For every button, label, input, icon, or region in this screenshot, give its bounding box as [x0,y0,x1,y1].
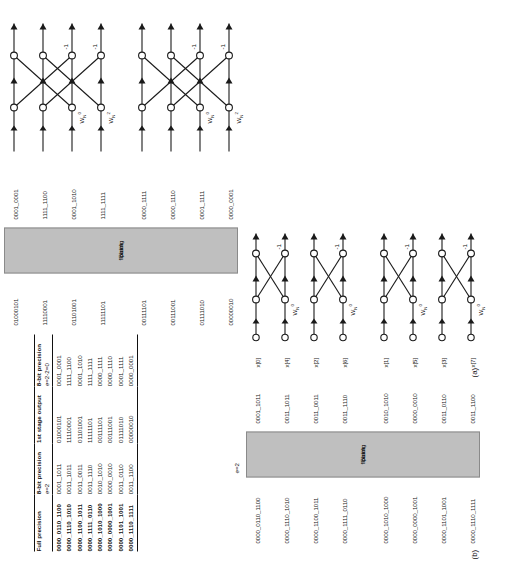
panel-b-full-7: 0000_1110_1111 [469,499,476,543]
panel-b-8bit-5: 0000_0010 [411,393,418,423]
panel-a-twiddle-1: WN2 [106,112,116,123]
panel-a-out-0: 0001_0001 [12,189,19,219]
panel-a-neg1-3: -1 [219,43,226,49]
panel-b-full-4: 0000_1010_1000 [382,496,389,543]
panel-b-neg1-2: -1 [403,243,410,249]
panel-a-in-3: 11111101 [99,301,106,325]
panel-b-block-line3: point [359,447,367,460]
panel-b-twiddle-0: WN0 [290,304,300,315]
panel-a-out-4: 0000_1111 [140,190,147,219]
panel-b-full-6: 0000_1101_1001 [440,497,447,543]
figure-upright: (b) (a) 0000_0110_1100 0000_1110_1010 00… [0,0,508,573]
panel-a-in-7: 00000010 [227,298,234,325]
panel-a-out-2: 0001_1010 [70,189,77,219]
panel-b-full-2: 0000_1100_1011 [312,497,319,543]
panel-a-block-line3: point [117,243,125,256]
panel-a-twiddle-3: WN2 [234,112,244,123]
panel-a-out-5: 0000_1110 [169,190,176,219]
panel-a-twiddle-0: WN0 [77,112,87,123]
panel-b-x-7: x[7] [469,357,476,367]
panel-a-in-5: 00111001 [169,299,176,325]
panel-b-8bit-7: 0011_1100 [469,394,476,423]
panel-b-neg1-1: -1 [333,243,340,249]
panel-b-x-4: x[1] [382,357,389,367]
panel-b-x-2: x[2] [312,357,319,367]
panel-a-datapath: 01000101 11110001 01101001 11111101 0011… [0,0,240,573]
panel-b-x-5: x[5] [411,357,418,367]
panel-b-x-0: x[0] [254,357,261,367]
panel-b-twiddle-2: WN0 [418,304,428,315]
panel-b: 0000_0110_1100 0000_1110_1010 0000_1100_… [242,0,494,573]
panel-a-neg1-2: -1 [190,43,197,49]
panel-b-neg1-3: -1 [461,243,468,249]
panel-b-twiddle-3: WN0 [476,304,486,315]
panel-a-twiddle-2: WN0 [205,112,215,123]
panel-b-x-1: x[4] [283,357,290,367]
panel-a-neg1-0: -1 [62,43,69,49]
panel-a-out-3: 1111_1111 [99,192,106,219]
panel-a-in-6: 01111010 [198,300,205,325]
panel-a-block-floating-point: Block floating point [4,227,238,273]
panel-a-in-2: 01101001 [70,299,77,325]
panel-b-8bit-3: 0011_1110 [341,394,348,423]
panel-a: Full precision 8-bit precision 1st stage… [0,0,240,573]
panel-a-in-4: 00111101 [140,300,147,325]
panel-a-out-7: 0000_0001 [227,189,234,219]
panel-b-twiddle-1: WN0 [348,304,358,315]
panel-b-8bit-6: 0011_0110 [440,394,447,423]
panel-b-full-3: 0000_1111_0110 [341,498,348,543]
figure-canvas: (b) (a) 0000_0110_1100 0000_1110_1010 00… [0,0,508,573]
panel-b-x-6: x[3] [440,357,447,367]
panel-b-x-3: x[6] [341,357,348,367]
panel-b-full-0: 0000_0110_1100 [254,497,261,543]
panel-b-8bit-2: 0011_0011 [312,394,319,423]
panel-b-neg1-0: -1 [275,243,282,249]
panel-b-full-5: 0000_0000_1001 [411,496,418,543]
panel-a-in-0: 01000101 [12,298,19,325]
panel-b-8bit-1: 0011_1011 [283,394,290,423]
panel-a-neg1-1: -1 [91,43,98,49]
panel-b-8bit-0: 0001_1011 [254,393,261,423]
panel-b-block-floating-point: Block floating point [246,431,480,477]
panel-a-in-1: 11110001 [41,300,48,325]
panel-a-out-1: 1111_1100 [41,191,48,219]
panel-a-butterfly-graph [0,15,240,155]
panel-a-out-6: 0001_1111 [198,190,205,219]
panel-b-8bit-4: 0010_1010 [382,393,389,423]
panel-b-full-1: 0000_1110_1010 [283,497,290,543]
